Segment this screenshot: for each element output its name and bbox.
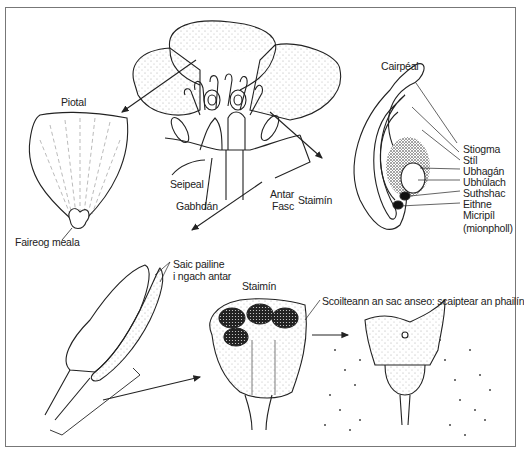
label-mionpholl: (mionpholl) [463,222,513,234]
label-staimin-flower: Staimín [298,194,332,206]
label-scoilteann: Scoilteann an sac anseo: scaiptear an ph… [322,295,524,307]
label-cairpeal: Cairpéal [381,60,419,72]
label-antar: Antar [270,188,294,200]
label-gabhdan: Gabhdán [176,200,218,212]
label-seipeal: Seipeal [170,178,204,190]
label-i-ngach-antar: i ngach antar [173,270,231,282]
anther-illustration [45,262,200,435]
label-fasc: Fasc [272,200,294,212]
label-saic-pailine: Saic pailine [173,258,224,270]
label-micripil: Micripíl [463,209,495,221]
dehisced-anther [365,300,445,425]
label-piotal: Piotal [61,96,86,108]
carpel-cross-section [354,64,460,230]
petal-illustration [29,112,127,240]
label-staimin-section: Staimín [242,280,276,292]
label-faireog-meala: Faireog meala [15,236,80,248]
stamen-section [210,299,348,430]
